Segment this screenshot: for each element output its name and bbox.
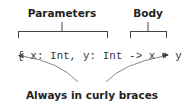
code-body: x + y: [149, 50, 182, 62]
lambda-code: { x: Int, y: Int -> x + y }: [4, 38, 186, 62]
caption-label: Always in curly braces: [26, 89, 158, 101]
body-bracket: [131, 22, 167, 38]
parameters-bracket: [19, 22, 108, 38]
code-parameters: x: Int, y: Int: [30, 50, 122, 62]
code-arrow: ->: [129, 50, 142, 62]
open-brace: {: [17, 50, 24, 62]
